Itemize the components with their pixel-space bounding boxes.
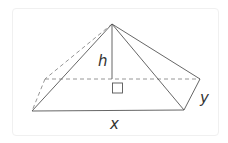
left-back-edge	[32, 79, 45, 111]
pyramid-diagram: h x y	[0, 0, 228, 143]
base-length-label: x	[109, 115, 119, 133]
apex-to-front-right-edge	[112, 24, 184, 110]
hidden-edges	[32, 24, 200, 111]
base-front-edge	[32, 110, 184, 111]
visible-edges	[32, 24, 200, 111]
right-angle-marker	[113, 83, 123, 93]
base-width-label: y	[199, 89, 210, 107]
apex-to-back-right-edge	[112, 24, 200, 79]
base-right-edge	[184, 79, 200, 110]
height-label: h	[98, 52, 108, 70]
